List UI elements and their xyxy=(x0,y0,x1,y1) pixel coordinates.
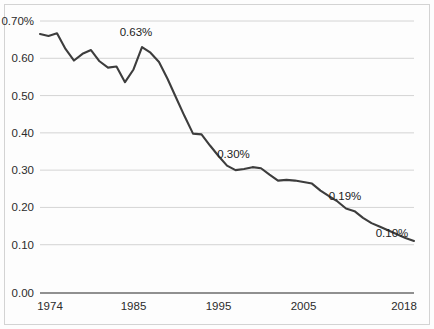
data-point-label: 0.63% xyxy=(120,26,153,38)
y-tick-label: 0.70% xyxy=(1,15,34,27)
gridlines-group xyxy=(40,21,414,245)
y-tick-label: 0.30 xyxy=(12,164,34,176)
chart-container: 0.70%0.600.500.400.300.200.100.00 197419… xyxy=(0,0,434,329)
x-tick-label: 2005 xyxy=(291,300,317,312)
x-tick-label: 1985 xyxy=(121,300,147,312)
x-tick-label: 1995 xyxy=(206,300,232,312)
x-axis-tick-labels: 19741985199520052018 xyxy=(37,300,417,312)
x-tick-label: 2018 xyxy=(391,300,417,312)
y-tick-label: 0.00 xyxy=(12,287,34,299)
y-tick-label: 0.60 xyxy=(12,52,34,64)
data-series-line xyxy=(40,33,414,241)
data-point-label: 0.19% xyxy=(329,190,362,202)
y-tick-label: 0.10 xyxy=(12,239,34,251)
y-tick-label: 0.40 xyxy=(12,127,34,139)
x-tick-label: 1974 xyxy=(37,300,63,312)
y-tick-label: 0.20 xyxy=(12,201,34,213)
y-tick-label: 0.50 xyxy=(12,90,34,102)
line-chart: 0.70%0.600.500.400.300.200.100.00 197419… xyxy=(0,0,434,329)
y-axis-tick-labels: 0.70%0.600.500.400.300.200.100.00 xyxy=(1,15,34,299)
data-point-label: 0.30% xyxy=(217,148,250,160)
data-point-label: 0.10% xyxy=(376,227,409,239)
